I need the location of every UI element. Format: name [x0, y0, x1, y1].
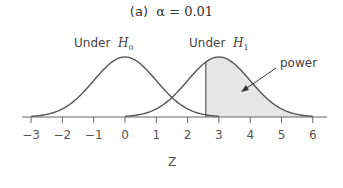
label-math: H [233, 36, 243, 50]
x-axis-label: Z [168, 155, 176, 169]
x-tick-label: −1 [85, 128, 103, 142]
x-tick-label: 0 [121, 128, 129, 142]
x-tick-label: −2 [54, 128, 72, 142]
label-power: power [280, 56, 317, 70]
label-under-h0: Under H0 [74, 36, 134, 52]
label-math: H [118, 36, 128, 50]
label-sub: 1 [243, 43, 248, 52]
x-tick-label: −3 [22, 128, 40, 142]
x-tick-label: 6 [309, 128, 317, 142]
x-tick-label: 4 [246, 128, 254, 142]
h0-curve [31, 57, 219, 116]
x-tick-label: 3 [215, 128, 223, 142]
label-text: Under [189, 36, 225, 50]
label-sub: 0 [128, 43, 133, 52]
x-tick-label: 1 [152, 128, 160, 142]
x-tick-label: 5 [278, 128, 286, 142]
x-tick-label: 2 [184, 128, 192, 142]
label-under-h1: Under H1 [189, 36, 249, 52]
label-text: Under [74, 36, 110, 50]
